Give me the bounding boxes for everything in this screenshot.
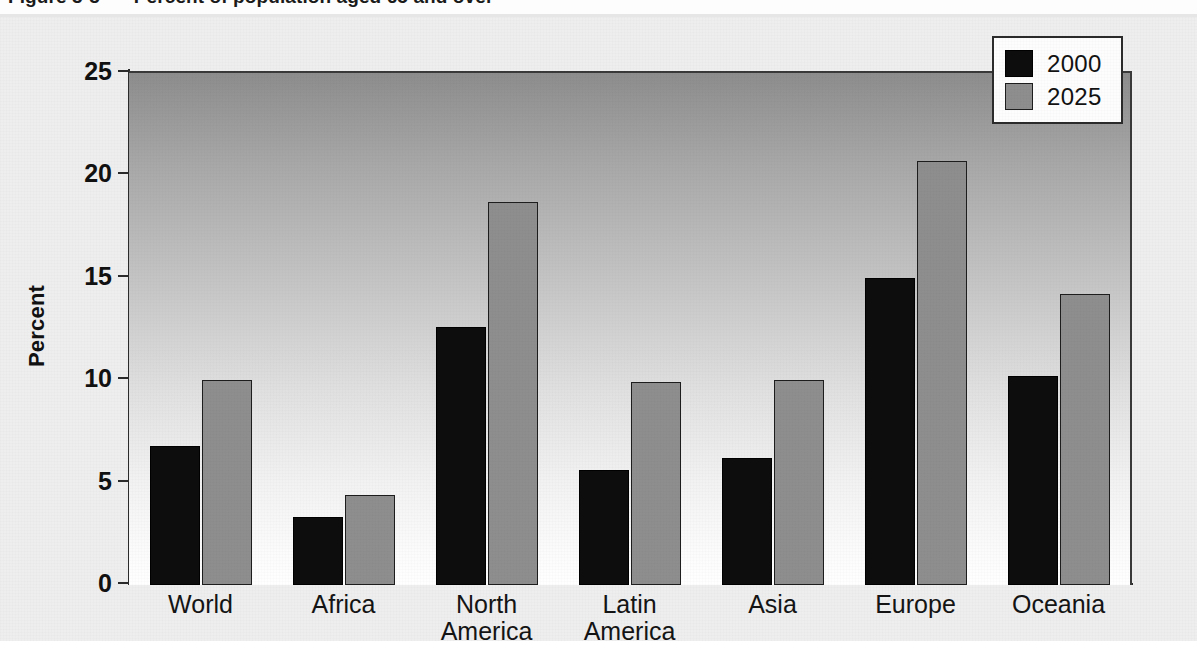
y-axis-tick — [118, 377, 129, 379]
bar-europe-2025[interactable] — [917, 161, 967, 585]
y-axis-tick-label: 5 — [2, 466, 112, 495]
bar-north-america-2000[interactable] — [436, 327, 486, 585]
bar-oceania-2025[interactable] — [1060, 294, 1110, 585]
bar-group — [293, 73, 394, 585]
legend-swatch-icon — [1005, 50, 1033, 77]
bar-group — [436, 73, 537, 585]
bar-group — [150, 73, 251, 585]
legend-item[interactable]: 2000 — [1005, 47, 1111, 80]
bar-oceania-2000[interactable] — [1008, 376, 1058, 585]
figure-container: Figure 3-3Percent of population aged 65 … — [0, 0, 1197, 645]
plot-area — [129, 71, 1132, 585]
y-axis-tick-label: 25 — [2, 57, 112, 86]
bar-world-2025[interactable] — [202, 380, 252, 585]
bar-group — [1008, 73, 1109, 585]
chart-panel: Percent 0510152025 WorldAfricaNorthAmeri… — [0, 17, 1197, 645]
bar-group — [865, 73, 966, 585]
bar-asia-2025[interactable] — [774, 380, 824, 585]
y-axis-tick-label: 20 — [2, 159, 112, 188]
y-axis-tick — [118, 172, 129, 174]
x-axis-tick-label: Oceania — [964, 591, 1154, 618]
y-axis-tick — [118, 480, 129, 482]
y-axis-labels: 0510152025 — [0, 17, 112, 645]
x-axis-label-line-1: Oceania — [964, 591, 1154, 618]
bar-north-america-2025[interactable] — [488, 202, 538, 585]
legend-item-label: 2025 — [1047, 83, 1102, 111]
y-axis-tick-label: 10 — [2, 364, 112, 393]
bar-africa-2025[interactable] — [345, 495, 395, 585]
page-bleed — [0, 641, 1197, 645]
bar-latin-america-2025[interactable] — [631, 382, 681, 585]
legend-item[interactable]: 2025 — [1005, 80, 1111, 113]
figure-caption-number: Figure 3-3 — [8, 0, 100, 7]
bar-group — [722, 73, 823, 585]
figure-caption: Figure 3-3Percent of population aged 65 … — [0, 0, 1197, 10]
bar-world-2000[interactable] — [150, 446, 200, 585]
y-axis-tick-label: 0 — [2, 569, 112, 598]
y-axis-tick — [118, 70, 129, 72]
chart-legend: 20002025 — [992, 36, 1123, 124]
figure-caption-title: Percent of population aged 65 and over — [134, 0, 494, 7]
bar-asia-2000[interactable] — [722, 458, 772, 585]
legend-item-label: 2000 — [1047, 50, 1102, 78]
y-axis-tick — [118, 582, 129, 584]
bar-africa-2000[interactable] — [293, 517, 343, 585]
bar-group — [579, 73, 680, 585]
legend-swatch-icon — [1005, 83, 1033, 110]
bar-latin-america-2000[interactable] — [579, 470, 629, 585]
y-axis-tick — [118, 275, 129, 277]
y-axis-tick-label: 15 — [2, 261, 112, 290]
bar-europe-2000[interactable] — [865, 278, 915, 585]
